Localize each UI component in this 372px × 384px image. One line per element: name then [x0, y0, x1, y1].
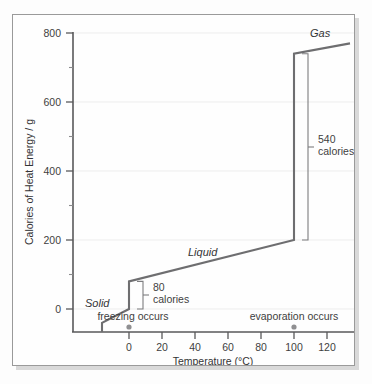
- y-axis-title: Calories of Heat Energy / g: [23, 119, 35, 245]
- bracket-80-unit: calories: [153, 293, 189, 305]
- x-tick-label-120: 120: [318, 341, 336, 353]
- y-axis-major-ticks: [66, 33, 73, 309]
- x-axis-ticks: [129, 332, 327, 339]
- phase-label-gas: Gas: [310, 27, 331, 39]
- y-tick-label-400: 400: [43, 165, 61, 177]
- x-tick-label-40: 40: [189, 341, 201, 353]
- bracket-540-unit: calories: [318, 145, 354, 157]
- figure-frame: 800 600 400 200 0 Calories of Heat Energ…: [12, 14, 355, 366]
- y-tick-label-600: 600: [43, 96, 61, 108]
- figure-drop-shadow-right: [355, 18, 359, 368]
- x-tick-label-100: 100: [285, 341, 303, 353]
- phase-label-liquid: Liquid: [188, 246, 218, 258]
- bracket-540-value: 540: [318, 133, 336, 145]
- y-tick-label-200: 200: [43, 234, 61, 246]
- heating-curve-chart: 800 600 400 200 0 Calories of Heat Energ…: [13, 15, 354, 365]
- annotation-freezing-occurs: freezing occurs: [97, 310, 168, 322]
- heating-curve-line: [102, 43, 350, 332]
- phase-label-solid: Solid: [85, 297, 110, 309]
- gridlines: [73, 33, 354, 309]
- x-tick-label-0: 0: [126, 341, 132, 353]
- y-tick-label-0: 0: [55, 303, 61, 315]
- bracket-80-value: 80: [153, 281, 165, 293]
- event-dot-evaporation: [291, 324, 296, 329]
- figure-drop-shadow-bottom: [16, 366, 359, 370]
- event-dot-freezing: [126, 324, 131, 329]
- annotation-evaporation-occurs: evaporation occurs: [250, 310, 339, 322]
- x-axis-title: Temperature (°C): [173, 355, 254, 365]
- bracket-80-calories: [137, 281, 149, 309]
- screenshot-page: 800 600 400 200 0 Calories of Heat Energ…: [0, 0, 372, 384]
- x-tick-label-20: 20: [156, 341, 168, 353]
- y-tick-label-800: 800: [43, 27, 61, 39]
- x-tick-label-80: 80: [255, 341, 267, 353]
- x-tick-label-60: 60: [222, 341, 234, 353]
- bracket-540-calories: [302, 54, 314, 240]
